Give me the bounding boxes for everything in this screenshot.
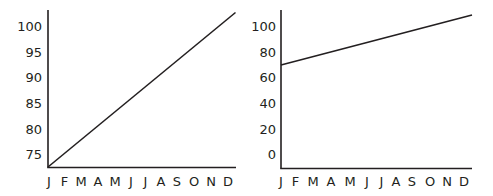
- y-tick-label: 85: [25, 96, 42, 111]
- y-tick-label: 90: [25, 70, 42, 85]
- x-tick-label: J: [278, 174, 283, 189]
- left-series-line: [48, 13, 236, 168]
- x-tick-label: D: [459, 174, 469, 189]
- y-tick-label: 0: [268, 147, 276, 162]
- y-tick-label: 75: [25, 147, 42, 162]
- x-tick-label: M: [307, 174, 318, 189]
- left-line-chart: 100 95 90 85 80 75 J F M A M J J A S O N…: [0, 0, 246, 196]
- y-tick-label: 20: [259, 122, 276, 137]
- y-tick-label: 80: [25, 122, 42, 137]
- right-series-line: [281, 15, 472, 65]
- y-tick-label: 100: [17, 19, 42, 34]
- x-tick-label: J: [364, 174, 369, 189]
- x-tick-label: M: [109, 174, 120, 189]
- left-y-tick-labels: 100 95 90 85 80 75: [17, 19, 42, 162]
- x-tick-label: J: [143, 174, 148, 189]
- x-tick-label: S: [408, 174, 416, 189]
- x-tick-label: A: [392, 174, 401, 189]
- x-tick-label: M: [75, 174, 86, 189]
- y-tick-label: 80: [259, 45, 276, 60]
- left-x-tick-labels: J F M A M J J A S O N D: [46, 174, 233, 189]
- x-tick-label: J: [379, 174, 384, 189]
- x-tick-label: D: [223, 174, 233, 189]
- y-tick-label: 95: [25, 45, 42, 60]
- x-tick-label: A: [327, 174, 336, 189]
- y-tick-label: 60: [259, 70, 276, 85]
- x-tick-label: N: [206, 174, 216, 189]
- x-tick-label: M: [344, 174, 355, 189]
- y-tick-label: 40: [259, 96, 276, 111]
- x-tick-label: N: [442, 174, 452, 189]
- x-tick-label: F: [61, 174, 68, 189]
- x-tick-label: S: [173, 174, 181, 189]
- left-chart-svg: 100 95 90 85 80 75 J F M A M J J A S O N…: [0, 0, 246, 196]
- right-y-tick-labels: 100 80 60 40 20 0: [251, 19, 276, 162]
- x-tick-label: F: [292, 174, 299, 189]
- x-tick-label: A: [157, 174, 166, 189]
- x-tick-label: O: [425, 174, 435, 189]
- right-line-chart: 100 80 60 40 20 0 J F M A M J J A S O N …: [246, 0, 493, 196]
- x-tick-label: J: [46, 174, 51, 189]
- right-x-tick-labels: J F M A M J J A S O N D: [278, 174, 469, 189]
- right-chart-svg: 100 80 60 40 20 0 J F M A M J J A S O N …: [246, 0, 493, 196]
- x-tick-label: O: [189, 174, 199, 189]
- x-tick-label: J: [128, 174, 133, 189]
- y-tick-label: 100: [251, 19, 276, 34]
- x-tick-label: A: [94, 174, 103, 189]
